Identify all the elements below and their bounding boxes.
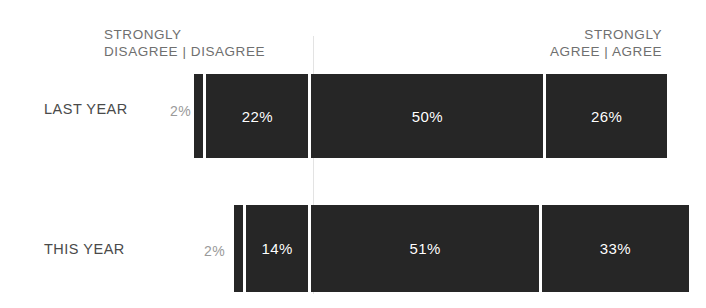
bar-segment-value: 50% (412, 108, 443, 125)
bar-segment-value: 33% (600, 240, 631, 257)
bar-track-this-year: 2%14%51%33% (234, 205, 680, 292)
bar-segment: 33% (542, 205, 689, 292)
bar-segment: 2% (234, 205, 243, 292)
bar-segment-value: 51% (409, 240, 440, 257)
outside-value-last-year: 2% (170, 103, 191, 119)
likert-bar-chart: STRONGLY DISAGREE | DISAGREE STRONGLY AG… (0, 0, 706, 308)
bar-segment-value: 22% (242, 108, 273, 125)
row-label-last-year: LAST YEAR (44, 101, 128, 117)
bar-segment-value: 26% (591, 108, 622, 125)
bar-segment: 14% (246, 205, 308, 292)
bar-segment: 26% (546, 74, 667, 158)
bar-segment: 51% (311, 205, 538, 292)
legend-label-disagree-side: STRONGLY DISAGREE | DISAGREE (104, 26, 265, 60)
bar-track-last-year: 2%22%50%26% (194, 74, 658, 158)
bar-segment-value: 14% (262, 240, 293, 257)
bar-segment: 2% (194, 74, 203, 158)
legend-label-agree-side: STRONGLY AGREE | AGREE (550, 26, 662, 60)
outside-value-this-year: 2% (204, 243, 225, 259)
row-label-this-year: THIS YEAR (44, 241, 125, 257)
bar-segment: 22% (206, 74, 308, 158)
bar-segment: 50% (311, 74, 543, 158)
